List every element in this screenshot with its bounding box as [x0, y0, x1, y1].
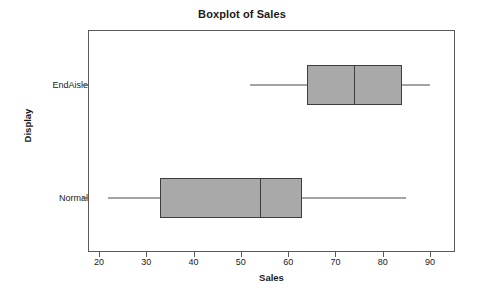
- whisker-low-endaisle: [250, 85, 307, 86]
- boxplot-series: [0, 0, 484, 292]
- whisker-high-endaisle: [402, 85, 430, 86]
- boxplot-figure: Boxplot of Sales Display Sales 203040506…: [0, 0, 484, 292]
- whisker-high-normal: [302, 198, 406, 199]
- median-normal: [260, 178, 261, 218]
- whisker-low-normal: [108, 198, 160, 199]
- median-endaisle: [354, 65, 355, 105]
- box-normal: [160, 178, 302, 218]
